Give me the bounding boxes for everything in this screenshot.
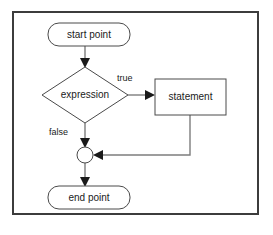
edge-label-false: false bbox=[49, 127, 68, 137]
edge-expression-to-merge bbox=[80, 123, 90, 148]
node-statement[interactable]: statement bbox=[155, 79, 226, 115]
arrowhead-icon bbox=[145, 90, 155, 100]
edge-line bbox=[100, 115, 190, 155]
edge-label-true: true bbox=[117, 73, 133, 83]
edge-statement-to-merge bbox=[93, 115, 190, 160]
node-end-point[interactable]: end point bbox=[48, 186, 130, 209]
arrowhead-icon bbox=[93, 150, 103, 160]
flowchart-svg: start point expression statement end poi… bbox=[0, 0, 273, 235]
node-merge-point[interactable] bbox=[77, 147, 93, 163]
end-point-label: end point bbox=[68, 192, 109, 203]
node-start-point[interactable]: start point bbox=[48, 23, 130, 46]
node-expression[interactable]: expression bbox=[42, 67, 128, 123]
edge-expression-to-statement bbox=[128, 90, 155, 100]
expression-label: expression bbox=[61, 89, 109, 100]
statement-label: statement bbox=[169, 91, 213, 102]
start-point-label: start point bbox=[67, 29, 111, 40]
edge-start-to-expression bbox=[80, 46, 90, 68]
flowchart-canvas: start point expression statement end poi… bbox=[0, 0, 273, 235]
edge-merge-to-end bbox=[80, 163, 90, 187]
merge-circle-shape[interactable] bbox=[77, 147, 93, 163]
